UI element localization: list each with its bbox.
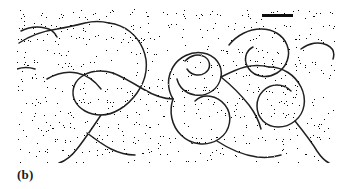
scale-bar — [262, 14, 293, 17]
micrograph-image — [17, 9, 335, 163]
figure-root: (b) — [0, 0, 345, 189]
panel-label: (b) — [17, 167, 34, 182]
micrograph-grain-layer-fine — [17, 9, 335, 163]
micrograph-panel — [17, 9, 335, 163]
